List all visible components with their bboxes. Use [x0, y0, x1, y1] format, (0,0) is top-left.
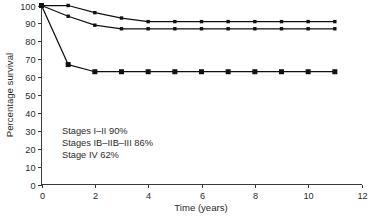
data-point-marker [280, 20, 283, 23]
data-point-marker [306, 27, 309, 30]
data-point-marker [306, 20, 309, 23]
data-point-marker [333, 27, 336, 30]
y-axis-title: Percentage survival [4, 53, 15, 137]
x-tick-label: 4 [146, 191, 151, 201]
series-line [42, 6, 335, 22]
data-point-marker [173, 27, 176, 30]
data-point-marker [226, 69, 231, 74]
data-point-marker [119, 69, 124, 74]
y-tick-label: 90 [25, 19, 35, 29]
data-point-marker [93, 23, 96, 26]
series-1 [40, 4, 337, 24]
y-axis-ticks: 0102030405060708090100 [20, 2, 41, 191]
y-tick-label: 80 [25, 37, 35, 47]
data-point-marker [332, 69, 337, 74]
data-point-marker [280, 27, 283, 30]
data-point-marker [226, 27, 229, 30]
x-axis-ticks: 024681012 [40, 185, 368, 201]
data-point-marker [66, 15, 69, 18]
data-point-marker [92, 69, 97, 74]
data-point-marker [93, 11, 96, 14]
data-point-marker [66, 4, 69, 7]
data-point-marker [66, 62, 71, 67]
data-point-marker [253, 27, 256, 30]
data-point-marker [120, 16, 123, 19]
x-tick-label: 6 [200, 191, 205, 201]
y-tick-label: 100 [20, 2, 35, 12]
y-tick-label: 60 [25, 73, 35, 83]
data-point-marker [333, 20, 336, 23]
data-point-marker [253, 20, 256, 23]
y-tick-label: 10 [25, 163, 35, 173]
x-tick-label: 2 [93, 191, 98, 201]
survival-chart-figure: 0102030405060708090100 024681012 Time (y… [0, 0, 383, 224]
data-point-marker [200, 27, 203, 30]
data-point-marker [120, 27, 123, 30]
series-2 [40, 4, 337, 31]
data-point-marker [279, 69, 284, 74]
data-point-marker [172, 69, 177, 74]
data-point-marker [199, 69, 204, 74]
data-point-marker [306, 69, 311, 74]
x-tick-label: 8 [253, 191, 258, 201]
data-point-marker [146, 69, 151, 74]
series-line [42, 6, 335, 72]
annotation-line-2: Stages IB–IIB–III 86% [62, 138, 153, 148]
data-point-marker [173, 20, 176, 23]
data-point-marker [39, 3, 44, 8]
data-point-marker [252, 69, 257, 74]
y-tick-label: 0 [30, 181, 35, 191]
y-tick-label: 70 [25, 55, 35, 65]
data-point-marker [146, 20, 149, 23]
annotation-line-1: Stages I–II 90% [62, 126, 128, 136]
data-point-marker [200, 20, 203, 23]
data-point-marker [146, 27, 149, 30]
y-tick-label: 50 [25, 91, 35, 101]
annotation-block: Stages I–II 90% Stages IB–IIB–III 86% St… [62, 126, 153, 160]
annotation-line-3: Stage IV 62% [62, 150, 119, 160]
y-tick-label: 40 [25, 109, 35, 119]
data-point-marker [226, 20, 229, 23]
x-tick-label: 10 [303, 191, 313, 201]
y-tick-label: 30 [25, 127, 35, 137]
series-line [42, 6, 335, 29]
series-layer [39, 3, 337, 74]
y-tick-label: 20 [25, 145, 35, 155]
x-tick-label: 0 [40, 191, 45, 201]
plot-canvas: 0102030405060708090100 024681012 Time (y… [0, 0, 383, 224]
series-3 [39, 3, 337, 74]
x-tick-label: 12 [357, 191, 367, 201]
x-axis-title: Time (years) [174, 202, 227, 213]
